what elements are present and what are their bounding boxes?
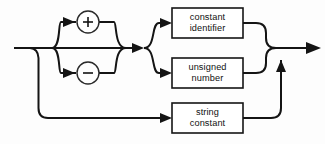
minus-branch-out-rail [99,48,126,73]
box-unsigned-number-line2: number [192,73,224,83]
arrow-to-unsigned-number-icon [160,68,172,78]
string-constant-out-rail [243,60,281,118]
arrow-to-plus-icon [63,17,75,27]
box-unsigned-number-line1: unsigned [188,62,226,72]
box-string-constant-line2: constant [190,118,226,128]
constant-identifier-out-rail [243,23,276,48]
syntax-diagram-container: constant identifier unsigned number stri… [0,0,325,144]
box-constant-identifier-line1: constant [190,12,226,22]
arrow-to-constant-identifier-icon [160,18,172,28]
arrow-exit-icon [306,42,321,54]
bottom-lane-rail [30,48,163,118]
box-string-constant-line1: string [196,107,219,117]
arrow-to-string-constant-icon [160,113,172,123]
unsigned-number-out-rail [243,48,276,73]
box-constant-identifier-line2: identifier [190,23,226,33]
arrow-after-sign-merge-icon [132,43,144,53]
plus-branch-out-rail [99,22,126,48]
arrow-to-minus-icon [63,68,75,78]
arrow-bottom-merge-up-icon [276,60,286,72]
railroad-diagram-svg: constant identifier unsigned number stri… [0,0,325,144]
